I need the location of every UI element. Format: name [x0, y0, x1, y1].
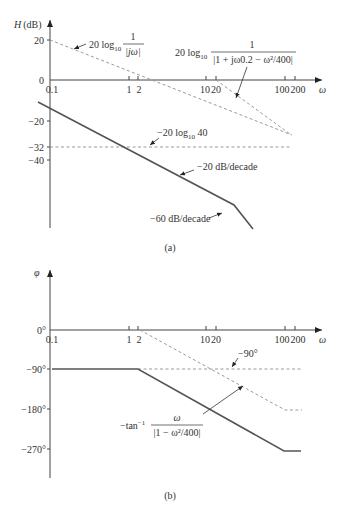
- bode-plot-figure: H(dB) 20 0 −20 −32 −40 0.1 1 2 10 20 100: [0, 0, 340, 519]
- svg-text:0.1: 0.1: [46, 334, 59, 345]
- svg-text:−270°: −270°: [21, 444, 46, 455]
- total-phase-line: [52, 369, 301, 451]
- svg-text:0.1: 0.1: [46, 84, 59, 95]
- svg-text:−tan−1: −tan−1: [120, 419, 146, 431]
- svg-text:10: 10: [200, 334, 210, 345]
- svg-text:100: 100: [275, 334, 290, 345]
- svg-text:−20: −20: [28, 116, 44, 127]
- svg-text:0°: 0°: [37, 325, 46, 336]
- annotation-constant: −20 log10 40: [150, 127, 207, 145]
- svg-text:20: 20: [211, 84, 221, 95]
- svg-text:−40: −40: [28, 155, 44, 166]
- svg-text:20: 20: [34, 35, 44, 46]
- phase-plot: φ 0° −90° −180° −270° 0.1 1 2 10 20 100 …: [21, 267, 326, 502]
- svg-text:2: 2: [137, 334, 142, 345]
- x-ticks: 0.1 1 2 10 20 100 200 ω: [46, 326, 326, 345]
- svg-text:1: 1: [131, 31, 136, 42]
- svg-text:100: 100: [275, 84, 290, 95]
- svg-text:−90°: −90°: [238, 348, 258, 359]
- y-axis-label: H(dB): [13, 19, 42, 31]
- svg-text:−20 log10 40: −20 log10 40: [157, 127, 207, 141]
- svg-text:0: 0: [39, 75, 44, 86]
- magnitude-plot: H(dB) 20 0 −20 −32 −40 0.1 1 2 10 20 100: [13, 19, 326, 254]
- svg-text:20 log10: 20 log10: [175, 47, 208, 61]
- caption-b: (b): [164, 490, 176, 502]
- svg-text:−20 dB/decade: −20 dB/decade: [197, 161, 258, 172]
- svg-text:200: 200: [291, 334, 306, 345]
- annotation-slope-60: −60 dB/decade: [150, 213, 222, 224]
- x-ticks: 0.1 1 2 10 20 100 200 ω: [46, 76, 326, 95]
- annotation-minus90: −90°: [232, 348, 258, 367]
- svg-text:ω: ω: [173, 412, 180, 423]
- svg-text:|1 − ω²/400|: |1 − ω²/400|: [153, 427, 200, 438]
- svg-text:20 log10: 20 log10: [89, 39, 122, 53]
- caption-a: (a): [164, 242, 175, 254]
- svg-text:|1 + jω0.2 − ω²/400|: |1 + jω0.2 − ω²/400|: [213, 54, 293, 65]
- x-axis-label: ω: [319, 84, 326, 95]
- svg-text:1: 1: [127, 84, 132, 95]
- svg-text:|jω|: |jω|: [125, 46, 140, 57]
- svg-text:−60 dB/decade: −60 dB/decade: [150, 213, 211, 224]
- x-axis-label: ω: [319, 334, 326, 345]
- svg-text:−180°: −180°: [21, 404, 46, 415]
- y-axis-label: φ: [34, 267, 40, 278]
- annotation-slope-20: −20 dB/decade: [180, 161, 258, 175]
- svg-text:10: 10: [200, 84, 210, 95]
- svg-text:20: 20: [211, 334, 221, 345]
- svg-text:−32: −32: [28, 142, 44, 153]
- svg-text:2: 2: [137, 84, 142, 95]
- svg-text:200: 200: [291, 84, 306, 95]
- annotation-integrator: 20 log10 1 |jω|: [74, 31, 144, 57]
- svg-text:1: 1: [127, 334, 132, 345]
- svg-text:−90°: −90°: [26, 364, 46, 375]
- y-ticks: 20 0 −20 −32 −40: [28, 35, 50, 166]
- svg-text:1: 1: [250, 39, 255, 50]
